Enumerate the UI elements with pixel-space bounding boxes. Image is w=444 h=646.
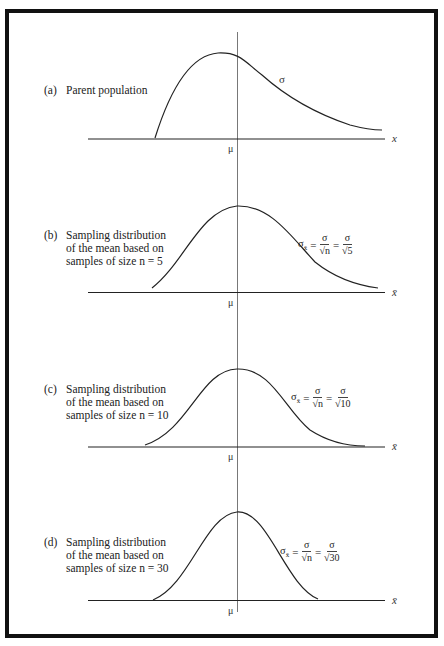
numerator: σ [327, 540, 336, 552]
panel-a-tag: (a) [44, 84, 66, 97]
denominator: √10 [335, 398, 351, 409]
panel-b-line-1: Sampling distribution [66, 229, 166, 241]
denominator: √n [301, 552, 312, 563]
equals-sign: = [326, 392, 332, 404]
numerator: σ [320, 233, 329, 245]
panel-a-line-1: Parent population [66, 84, 147, 96]
equals-sign: = [292, 546, 298, 558]
panel-b-line-2: of the mean based on [44, 242, 166, 255]
x-axis-label-a: x [392, 132, 397, 144]
panel-a-label: (a)Parent population [44, 84, 147, 97]
formula-d-sub: x̄ [286, 551, 290, 559]
panel-c-line-3: samples of size n = 10 [44, 409, 169, 422]
fraction-sigma-root-30: σ√30 [324, 540, 340, 563]
equals-sign: = [310, 239, 316, 251]
curve-parent-population [155, 53, 382, 138]
fraction-sigma-root-n: σ√n [319, 233, 330, 256]
equals-sign: = [315, 546, 321, 558]
panel-d-line-3: samples of size n = 30 [44, 562, 169, 575]
numerator: σ [343, 233, 352, 245]
mu-label-a: μ [228, 143, 233, 154]
panel-d-tag: (d) [44, 536, 66, 549]
equals-sign: = [333, 239, 339, 251]
panel-b-tag: (b) [44, 229, 66, 242]
sigma-label-a: σ [279, 73, 285, 85]
fraction-sigma-root-10: σ√10 [335, 386, 351, 409]
panel-d-label: (d)Sampling distribution of the mean bas… [44, 536, 169, 575]
std-error-formula-b: σx̄ = σ√n = σ√5 [298, 233, 353, 256]
std-error-formula-d: σx̄ = σ√n = σ√30 [280, 540, 340, 563]
fraction-sigma-root-n: σ√n [301, 540, 312, 563]
numerator: σ [338, 386, 347, 398]
fraction-sigma-root-5: σ√5 [342, 233, 353, 256]
denominator: √n [312, 398, 323, 409]
panel-c-tag: (c) [44, 383, 66, 396]
formula-c-sub: x̄ [297, 397, 301, 405]
equals-sign: = [303, 392, 309, 404]
std-error-formula-c: σx̄ = σ√n = σ√10 [291, 386, 351, 409]
x-axis-label-d: x̄ [392, 594, 397, 606]
fraction-sigma-root-n: σ√n [312, 386, 323, 409]
numerator: σ [302, 540, 311, 552]
denominator: √n [319, 245, 330, 256]
formula-b-sub: x̄ [304, 244, 308, 252]
panel-c-line-1: Sampling distribution [66, 383, 166, 395]
panel-c-label: (c)Sampling distribution of the mean bas… [44, 383, 169, 422]
numerator: σ [313, 386, 322, 398]
x-axis-label-b: x̄ [392, 286, 397, 298]
mu-label-b: μ [228, 297, 233, 308]
panel-d-line-2: of the mean based on [44, 549, 169, 562]
panel-b-line-3: samples of size n = 5 [44, 255, 166, 268]
mu-label-c: μ [228, 451, 233, 462]
panel-c-line-2: of the mean based on [44, 396, 169, 409]
panel-d-line-1: Sampling distribution [66, 536, 166, 548]
panel-b-label: (b)Sampling distribution of the mean bas… [44, 229, 166, 268]
mu-label-d: μ [228, 605, 233, 616]
x-axis-label-c: x̄ [392, 440, 397, 452]
denominator: √5 [342, 245, 353, 256]
denominator: √30 [324, 552, 340, 563]
